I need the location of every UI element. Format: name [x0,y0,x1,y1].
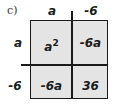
cell-a-squared-exponent: 2 [52,38,58,48]
row-header-a: a [10,36,26,50]
row-header-minus-6: -6 [4,79,26,93]
column-header-a: a [38,4,66,18]
cell-minus-6a-bottom: -6a [32,79,71,93]
cell-minus-6a-top: -6a [73,36,108,50]
horizontal-divider [21,64,108,66]
part-label: c) [7,4,17,17]
cell-a-squared: a2 [32,36,71,54]
column-header-minus-6: -6 [76,4,106,18]
cell-36: 36 [73,79,108,93]
